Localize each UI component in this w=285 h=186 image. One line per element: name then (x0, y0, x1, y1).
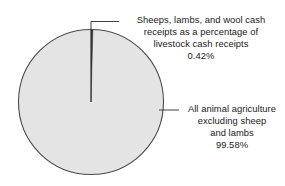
callout-value: 0.42% (122, 50, 280, 62)
sheep-callout-leader-line (91, 22, 119, 30)
callout-value: 99.58% (181, 139, 283, 151)
pie-chart-figure: Sheeps, lambs, and wool cash receipts as… (0, 0, 285, 186)
sheep-lambs-wool-callout-label: Sheeps, lambs, and wool cash receipts as… (122, 14, 280, 62)
callout-line: livestock cash receipts (122, 38, 280, 50)
callout-line: All animal agriculture (181, 103, 283, 115)
callout-line: excluding sheep (181, 115, 283, 127)
callout-line: Sheeps, lambs, and wool cash (122, 14, 280, 26)
all-animal-agriculture-callout-label: All animal agriculture excluding sheep a… (181, 103, 283, 151)
callout-line: receipts as a percentage of (122, 26, 280, 38)
callout-line: and lambs (181, 127, 283, 139)
